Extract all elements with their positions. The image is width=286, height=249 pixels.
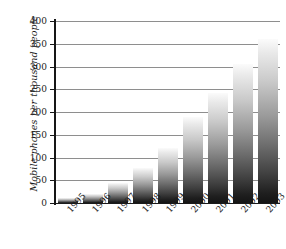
y-axis-tick [50,67,55,68]
bars [56,21,280,203]
y-axis-tick [50,203,55,204]
y-axis-tick [50,21,55,22]
bar [183,117,203,203]
y-axis-tick [50,44,55,45]
y-axis-tick-label: 250 [30,84,47,94]
y-axis-tick-label: 100 [30,153,47,163]
y-axis-tick-label: 300 [30,62,47,72]
y-axis-tick [50,180,55,181]
y-axis-tick [50,112,55,113]
y-axis-tick [50,89,55,90]
bar [233,64,253,203]
x-axis-tick-labels: 199519961997199819992000200120022003 [56,206,280,249]
bar [258,39,278,203]
y-axis-tick-label: 0 [41,198,47,208]
bar-chart: Mobile phones per thousand people 050100… [0,0,286,249]
y-axis-tick-label: 350 [30,39,47,49]
plot-area: 050100150200250300350400 [56,21,280,203]
y-axis-tick-label: 400 [30,16,47,26]
y-axis-tick [50,158,55,159]
y-axis-tick-label: 200 [30,107,47,117]
y-axis-tick [50,135,55,136]
y-axis-title: Mobile phones per thousand people [28,9,39,199]
bar [208,93,228,203]
y-axis-tick-label: 50 [36,175,47,185]
y-axis-tick-label: 150 [30,130,47,140]
